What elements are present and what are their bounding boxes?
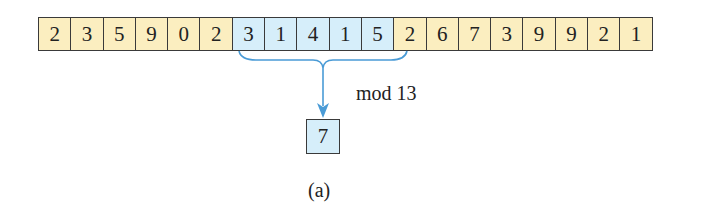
figure-caption: (a) — [308, 179, 330, 202]
brace-arrow-icon — [0, 0, 707, 215]
result-cell: 7 — [306, 119, 340, 154]
operation-label: mod 13 — [356, 82, 417, 105]
